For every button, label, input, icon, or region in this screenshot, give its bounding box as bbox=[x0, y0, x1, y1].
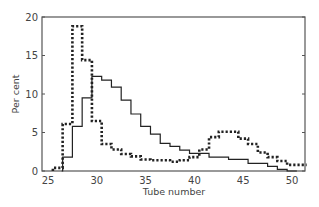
x-axis-label: Tube number bbox=[142, 186, 205, 197]
y-tick-label: 20 bbox=[25, 12, 38, 23]
x-tick-label: 40 bbox=[188, 175, 201, 186]
solid-series-line bbox=[62, 76, 297, 171]
y-axis-label: Per cent bbox=[10, 74, 21, 113]
x-tick-label: 50 bbox=[286, 175, 299, 186]
x-tick-label: 35 bbox=[139, 175, 152, 186]
plot-border bbox=[42, 17, 305, 171]
y-tick-label: 10 bbox=[25, 89, 38, 100]
y-tick-label: 0 bbox=[32, 166, 38, 177]
y-tick-label: 15 bbox=[25, 50, 38, 61]
x-axis-ticks: 253035404550 bbox=[42, 175, 299, 186]
plot-frame bbox=[42, 17, 305, 171]
x-tick-label: 30 bbox=[90, 175, 103, 186]
x-tick-label: 45 bbox=[237, 175, 250, 186]
x-tick-label: 25 bbox=[42, 175, 55, 186]
y-tick-label: 5 bbox=[32, 127, 38, 138]
histogram-chart: 05101520 253035404550 Tube number Per ce… bbox=[0, 0, 319, 207]
data-series bbox=[53, 26, 307, 171]
y-axis-ticks: 05101520 bbox=[25, 12, 305, 177]
